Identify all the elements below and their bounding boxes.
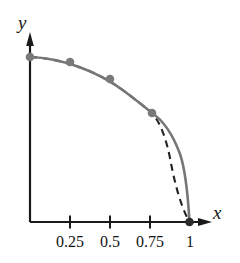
y-axis-label: y	[18, 13, 26, 32]
data-point-marker	[26, 53, 35, 62]
x-tick-label-0.5: 0.5	[93, 234, 127, 250]
x-axis-arrowhead	[198, 218, 212, 226]
x-tick-label-0.75: 0.75	[128, 234, 172, 250]
data-point-marker	[106, 75, 115, 84]
plot-area	[0, 0, 240, 263]
data-point-marker	[66, 58, 75, 67]
data-point-marker	[185, 218, 194, 227]
x-tick-label-0.25: 0.25	[48, 234, 92, 250]
x-axis-label: x	[213, 203, 221, 222]
data-point-marker	[148, 109, 157, 118]
figure-canvas: y x 0.25 0.5 0.75 1	[0, 0, 240, 263]
x-tick-label-1: 1	[180, 234, 200, 250]
y-axis-arrowhead	[26, 32, 34, 46]
